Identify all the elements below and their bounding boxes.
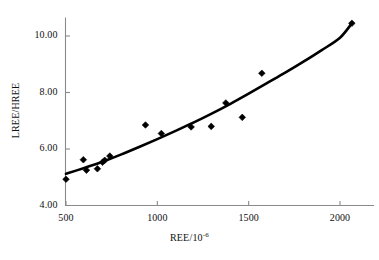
x-axis-label: REE/10-6 [0, 232, 379, 243]
data-point-marker [63, 176, 70, 183]
x-axis-tick-label: 1000 [137, 212, 177, 223]
chart-figure: LREE/HREE REE/10-6 4.006.008.0010.005001… [0, 0, 379, 260]
y-axis-tick-label: 8.00 [24, 86, 58, 97]
data-point-marker [94, 165, 101, 172]
y-axis-tick-label: 10.00 [24, 29, 58, 40]
y-axis-label: LREE/HREE [10, 61, 21, 161]
data-point-marker [208, 123, 215, 130]
x-axis-label-base: REE/10 [170, 232, 203, 243]
y-axis-tick-label: 4.00 [24, 199, 58, 210]
trend-curve [66, 23, 352, 174]
data-point-marker [80, 156, 87, 163]
x-axis-label-exponent: -6 [203, 231, 209, 239]
y-axis-tick-label: 6.00 [24, 142, 58, 153]
x-axis-tick-label: 1500 [229, 212, 269, 223]
data-point-marker [239, 114, 246, 121]
data-point-marker [259, 70, 266, 77]
x-axis-tick-label: 500 [46, 212, 86, 223]
x-axis-tick-label: 2000 [320, 212, 360, 223]
data-point-marker [142, 122, 149, 129]
